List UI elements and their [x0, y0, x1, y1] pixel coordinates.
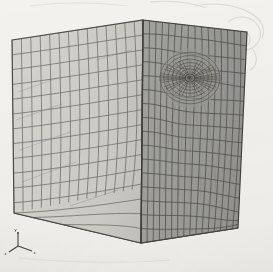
circular-refinement: [160, 48, 221, 108]
mesh-figure: x y z: [0, 0, 273, 272]
axis-label-z: z: [5, 251, 7, 256]
mesh-canvas: x y z: [0, 0, 273, 272]
cube-right-face: [141, 20, 247, 243]
cube-left-face: [12, 20, 144, 243]
